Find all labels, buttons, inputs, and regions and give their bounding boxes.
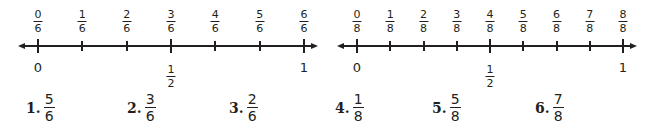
tick-mark bbox=[126, 41, 128, 51]
denominator: 8 bbox=[453, 22, 460, 34]
tick-mark bbox=[389, 41, 391, 51]
arrow-right-icon bbox=[630, 43, 637, 49]
tick-label-fraction: 68 bbox=[552, 9, 561, 34]
arrow-right-icon bbox=[311, 43, 318, 49]
denominator: 8 bbox=[554, 108, 563, 123]
denominator: 6 bbox=[123, 22, 130, 34]
numerator: 6 bbox=[552, 9, 561, 22]
tick-label-fraction: 78 bbox=[585, 9, 594, 34]
numerator: 2 bbox=[419, 9, 428, 22]
benchmark-one: 1 bbox=[300, 60, 308, 75]
denominator: 8 bbox=[354, 22, 361, 34]
numerator: 4 bbox=[211, 9, 220, 22]
denominator: 6 bbox=[301, 22, 308, 34]
problem-number: 5. bbox=[432, 100, 447, 116]
benchmark-one-half: 12 bbox=[167, 64, 176, 89]
tick-label-fraction: 36 bbox=[167, 9, 176, 34]
tick-label-fraction: 08 bbox=[353, 9, 362, 34]
denominator: 6 bbox=[35, 22, 42, 34]
tick-mark bbox=[170, 39, 172, 53]
benchmark-one-half: 12 bbox=[486, 64, 495, 89]
problem-4: 4.18 bbox=[335, 92, 364, 123]
denominator: 8 bbox=[451, 108, 460, 123]
tick-mark bbox=[259, 41, 261, 51]
denominator: 2 bbox=[487, 77, 494, 89]
denominator: 6 bbox=[168, 22, 175, 34]
denominator: 6 bbox=[256, 22, 263, 34]
tick-mark bbox=[489, 39, 491, 53]
denominator: 6 bbox=[146, 108, 155, 123]
problem-5: 5.58 bbox=[432, 92, 461, 123]
problem-2: 2.36 bbox=[127, 92, 156, 123]
denominator: 8 bbox=[586, 22, 593, 34]
tick-label-fraction: 88 bbox=[619, 9, 628, 34]
numerator: 1 bbox=[167, 64, 176, 77]
tick-mark bbox=[522, 41, 524, 51]
denominator: 6 bbox=[248, 108, 257, 123]
numerator: 5 bbox=[519, 9, 528, 22]
tick-mark bbox=[37, 39, 39, 53]
tick-label-fraction: 18 bbox=[386, 9, 395, 34]
denominator: 8 bbox=[387, 22, 394, 34]
numerator: 7 bbox=[553, 92, 564, 108]
problem-number: 3. bbox=[229, 100, 244, 116]
tick-mark bbox=[214, 41, 216, 51]
tick-label-fraction: 26 bbox=[122, 9, 131, 34]
tick-label-fraction: 56 bbox=[255, 9, 264, 34]
tick-label-fraction: 66 bbox=[300, 9, 309, 34]
numerator: 3 bbox=[452, 9, 461, 22]
problem-number: 1. bbox=[26, 100, 41, 116]
numerator: 0 bbox=[353, 9, 362, 22]
denominator: 6 bbox=[79, 22, 86, 34]
problem-fraction: 36 bbox=[145, 92, 156, 123]
numerator: 1 bbox=[78, 9, 87, 22]
problem-number: 6. bbox=[535, 100, 550, 116]
numerator: 5 bbox=[44, 92, 55, 108]
tick-mark bbox=[556, 41, 558, 51]
benchmark-zero: 0 bbox=[353, 60, 361, 75]
denominator: 8 bbox=[420, 22, 427, 34]
denominator: 8 bbox=[487, 22, 494, 34]
problem-fraction: 26 bbox=[247, 92, 258, 123]
denominator: 8 bbox=[620, 22, 627, 34]
tick-label-fraction: 38 bbox=[452, 9, 461, 34]
problem-fraction: 78 bbox=[553, 92, 564, 123]
tick-mark bbox=[589, 41, 591, 51]
problem-6: 6.78 bbox=[535, 92, 564, 123]
denominator: 6 bbox=[45, 108, 54, 123]
tick-label-fraction: 48 bbox=[486, 9, 495, 34]
arrow-left-icon bbox=[18, 43, 25, 49]
benchmark-one: 1 bbox=[619, 60, 627, 75]
numerator: 4 bbox=[486, 9, 495, 22]
problem-fraction: 56 bbox=[44, 92, 55, 123]
numerator: 5 bbox=[255, 9, 264, 22]
numerator: 1 bbox=[353, 92, 364, 108]
problem-3: 3.26 bbox=[229, 92, 258, 123]
numerator: 1 bbox=[486, 64, 495, 77]
problem-number: 4. bbox=[335, 100, 350, 116]
tick-mark bbox=[356, 39, 358, 53]
number-line-axis bbox=[22, 45, 314, 47]
tick-label-fraction: 58 bbox=[519, 9, 528, 34]
denominator: 8 bbox=[354, 108, 363, 123]
numerator: 6 bbox=[300, 9, 309, 22]
numerator: 2 bbox=[122, 9, 131, 22]
tick-label-fraction: 06 bbox=[34, 9, 43, 34]
tick-mark bbox=[303, 39, 305, 53]
denominator: 6 bbox=[212, 22, 219, 34]
denominator: 8 bbox=[520, 22, 527, 34]
numerator: 7 bbox=[585, 9, 594, 22]
tick-label-fraction: 16 bbox=[78, 9, 87, 34]
numerator: 3 bbox=[145, 92, 156, 108]
numerator: 3 bbox=[167, 9, 176, 22]
numerator: 0 bbox=[34, 9, 43, 22]
tick-label-fraction: 28 bbox=[419, 9, 428, 34]
tick-mark bbox=[456, 41, 458, 51]
numerator: 1 bbox=[386, 9, 395, 22]
benchmark-zero: 0 bbox=[34, 60, 42, 75]
numerator: 8 bbox=[619, 9, 628, 22]
denominator: 2 bbox=[168, 77, 175, 89]
numerator: 2 bbox=[247, 92, 258, 108]
arrow-left-icon bbox=[337, 43, 344, 49]
problem-1: 1.56 bbox=[26, 92, 55, 123]
